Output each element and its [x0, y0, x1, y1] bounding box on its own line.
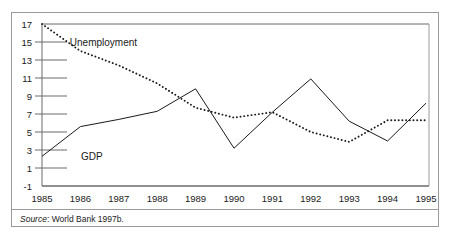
x-tick-label: 1995 — [415, 193, 436, 204]
source-prefix: Source — [20, 214, 47, 224]
x-tick-label: 1987 — [108, 193, 129, 204]
y-tick-label: 9 — [27, 91, 32, 102]
x-tick-labels-group: 1985198619871988198919901991199219931994… — [31, 193, 436, 204]
y-tick-label: 11 — [22, 73, 32, 84]
chart-plot-area: 1715131197531-1 198519861987198819891990… — [12, 13, 440, 228]
x-tick-label: 1994 — [377, 193, 398, 204]
x-tick-label: 1993 — [339, 193, 360, 204]
source-separator: : — [47, 214, 49, 224]
y-tick-label: 3 — [27, 145, 32, 156]
y-tick-label: 1 — [27, 163, 32, 174]
source-text: World Bank 1997b. — [52, 214, 124, 224]
x-tick-label: 1992 — [300, 193, 321, 204]
y-tick-label: 7 — [27, 109, 32, 120]
figure-panel: 1715131197531-1 198519861987198819891990… — [11, 12, 439, 227]
x-tick-label: 1991 — [262, 193, 283, 204]
line-chart: 1715131197531-1 198519861987198819891990… — [12, 13, 440, 211]
y-tick-label: 13 — [21, 55, 32, 66]
x-tick-label: 1989 — [185, 193, 206, 204]
series-label-unemployment: Unemployment — [70, 37, 137, 48]
x-tick-label: 1988 — [147, 193, 168, 204]
x-tick-label: 1985 — [31, 193, 52, 204]
series-label-gdp: GDP — [81, 151, 103, 162]
x-tick-label: 1986 — [70, 193, 91, 204]
y-tick-label: 5 — [27, 127, 32, 138]
x-tick-label: 1990 — [223, 193, 244, 204]
series-annotation-group: UnemploymentGDP — [70, 37, 137, 162]
y-tick-label: 15 — [21, 37, 32, 48]
y-tick-label: 17 — [21, 19, 32, 30]
source-note: Source: World Bank 1997b. — [12, 209, 438, 226]
y-tick-labels-group: 1715131197531-1 — [21, 19, 32, 192]
y-tick-label: -1 — [24, 181, 32, 192]
